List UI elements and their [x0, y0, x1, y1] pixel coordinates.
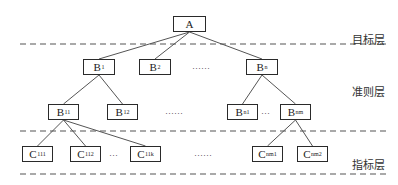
node-subscript: 2 [157, 64, 160, 70]
node-subscript: 11 [65, 109, 71, 115]
layer-label-criteria: 准则层 [352, 83, 385, 99]
node-cnm2: Cnm2 [297, 146, 328, 162]
node-subscript: 12 [123, 109, 129, 115]
node-label: B [288, 106, 295, 118]
node-subscript: n1 [243, 109, 249, 115]
node-subscript: n [264, 64, 267, 70]
node-subscript: 111 [37, 151, 46, 157]
edge-a-b1 [99, 32, 190, 59]
node-label: B [257, 61, 264, 73]
node-b11: B11 [48, 104, 79, 120]
node-b1: B1 [83, 59, 115, 75]
node-bnm: Bnm [280, 104, 311, 120]
edge-bn-bn1 [243, 75, 263, 104]
edge-a-b2 [155, 32, 190, 59]
edge-b11-c11k [64, 120, 146, 146]
edge-b11-c111 [38, 120, 64, 146]
ellipsis-marker: … [109, 148, 118, 158]
node-subscript: 11k [145, 151, 154, 157]
ellipsis-marker: …… [194, 148, 212, 158]
ellipsis-marker: … [261, 106, 270, 116]
node-label: B [94, 61, 101, 73]
node-subscript: 112 [85, 151, 94, 157]
edge-bnm-cnm1 [268, 120, 296, 146]
edge-b1-b12 [99, 75, 123, 104]
node-c11k: C11k [130, 146, 161, 162]
node-subscript: nm [296, 109, 304, 115]
node-a: A [173, 16, 206, 32]
node-label: B [116, 106, 123, 118]
node-label: C [137, 148, 144, 160]
node-cnm1: Cnm1 [252, 146, 283, 162]
node-b2: B2 [139, 59, 171, 75]
node-c111: C111 [22, 146, 53, 162]
node-c112: C112 [70, 146, 101, 162]
node-b12: B12 [107, 104, 138, 120]
node-label: C [303, 148, 310, 160]
node-bn1: Bn1 [227, 104, 258, 120]
node-label: A [186, 18, 194, 30]
node-label: B [236, 106, 243, 118]
edge-a-bn [190, 32, 263, 59]
node-subscript: nm2 [311, 151, 322, 157]
node-label: C [77, 148, 84, 160]
node-label: B [57, 106, 64, 118]
edge-bn-bnm [262, 75, 296, 104]
node-label: B [150, 61, 157, 73]
node-subscript: 1 [101, 64, 104, 70]
node-label: C [258, 148, 265, 160]
layer-label-indicator: 指标层 [352, 156, 385, 172]
ellipsis-marker: …… [165, 106, 183, 116]
ellipsis-marker: …… [192, 61, 210, 71]
tree-edges [38, 32, 313, 146]
edge-b1-b11 [64, 75, 100, 104]
node-subscript: nm1 [266, 151, 277, 157]
node-label: C [29, 148, 36, 160]
node-bn: Bn [246, 59, 278, 75]
layer-label-goal: 目标层 [352, 31, 385, 47]
edge-bnm-cnm2 [296, 120, 313, 146]
